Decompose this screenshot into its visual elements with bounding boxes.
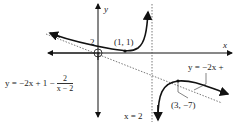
min-point-label: (1, 1) [114, 38, 134, 47]
curve-eq-prefix: y = −2x + 1 − [5, 78, 55, 88]
y-axis-label: y [104, 5, 108, 14]
min-point-marker [123, 49, 126, 52]
slant-asymptote-label: y = −2x + [188, 63, 223, 72]
max-point-label: (3, −7) [171, 101, 196, 110]
curve-eq-num: 2 [57, 74, 74, 84]
x-axis-label: x [223, 41, 227, 50]
curve-eq-fraction: 2 x − 2 [57, 74, 74, 93]
vertical-asymptote-label: x = 2 [124, 112, 143, 121]
curve-equation-label: y = −2x + 1 − 2 x − 2 [5, 74, 73, 93]
curve-eq-den: x − 2 [57, 84, 74, 93]
curve-left-branch [52, 12, 148, 51]
y-intercept-label: 2 [90, 38, 95, 47]
